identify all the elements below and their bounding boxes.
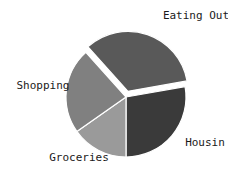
pie-label-eating-out: Eating Out bbox=[163, 9, 228, 22]
pie-label-shopping: Shopping bbox=[17, 79, 70, 92]
pie-chart-canvas: Eating OutHousinGroceriesShopping bbox=[0, 0, 228, 171]
pie-label-groceries: Groceries bbox=[49, 151, 109, 164]
pie-chart: Eating OutHousinGroceriesShopping bbox=[0, 0, 228, 171]
pie-label-housin: Housin bbox=[185, 136, 225, 149]
